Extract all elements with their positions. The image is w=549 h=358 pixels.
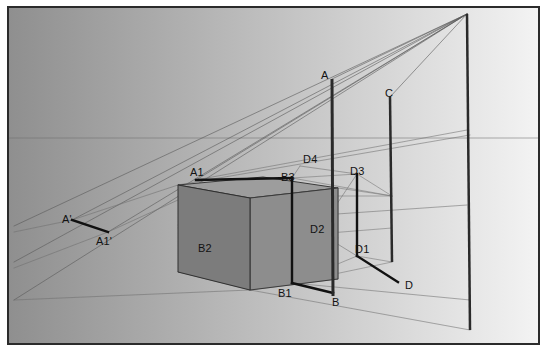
figure-canvas: ACA1B3D4D3D2D1B2B1BDA'A1': [0, 0, 549, 358]
point-label-B: B: [332, 297, 340, 308]
pole-A: [332, 79, 333, 296]
point-label-B1: B1: [278, 288, 292, 299]
perspective-diagram-svg: [9, 8, 540, 345]
point-label-A1: A1: [190, 167, 204, 178]
image-frame: ACA1B3D4D3D2D1B2B1BDA'A1': [7, 6, 540, 345]
point-label-C: C: [385, 88, 393, 99]
box-front-face: [178, 185, 250, 290]
point-label-B2: B2: [198, 243, 212, 254]
point-label-A: A: [321, 70, 329, 81]
perspective-scene: [9, 8, 538, 343]
point-label-D2: D2: [310, 224, 324, 235]
point-label-D3: D3: [350, 166, 364, 177]
point-label-D4: D4: [303, 154, 317, 165]
box-right-face: [250, 188, 338, 290]
point-label-Aprime: A': [62, 214, 72, 225]
point-label-A1prime: A1': [96, 236, 112, 247]
point-label-D: D: [405, 280, 413, 291]
point-label-D1: D1: [355, 244, 369, 255]
point-label-B3: B3: [281, 172, 295, 183]
